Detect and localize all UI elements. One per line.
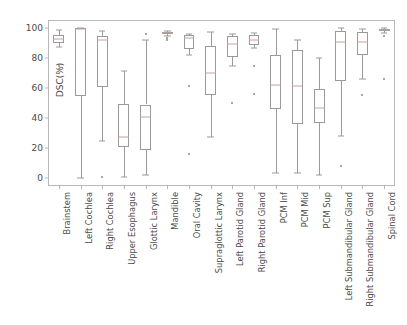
whisker-lower	[81, 96, 82, 177]
cap-upper	[359, 29, 366, 30]
x-tick-label: Oral Cavity	[192, 192, 202, 238]
cap-upper	[294, 40, 301, 41]
boxplot-figure: DSC(%) 020406080100 BrainstemLeft Cochle…	[0, 0, 407, 325]
x-tick-label: Brainstem	[62, 192, 72, 235]
whisker-upper	[276, 29, 277, 55]
x-tick-mark	[59, 186, 60, 189]
outlier-point	[166, 39, 168, 41]
cap-upper	[99, 30, 106, 31]
whisker-upper	[211, 32, 212, 46]
x-tick-mark	[102, 186, 103, 189]
x-tick-label: Right Parotid Gland	[257, 192, 267, 272]
cap-lower	[186, 54, 193, 55]
median-line	[184, 38, 195, 39]
cap-upper	[121, 70, 128, 71]
cap-upper	[207, 32, 214, 33]
median-line	[53, 38, 64, 39]
cap-upper	[56, 29, 63, 30]
cap-upper	[338, 28, 345, 29]
median-line	[140, 116, 151, 117]
iqr-box	[335, 31, 346, 81]
whisker-lower	[341, 81, 342, 136]
cap-lower	[142, 175, 149, 176]
cap-lower	[359, 78, 366, 79]
iqr-box	[227, 36, 238, 57]
y-tick-mark	[45, 118, 48, 119]
outlier-point	[231, 102, 233, 104]
outlier-point	[58, 68, 60, 70]
median-line	[335, 41, 346, 42]
x-tick-mark	[167, 186, 168, 189]
iqr-box	[97, 36, 108, 87]
y-axis-label: DSC(%)	[55, 40, 65, 120]
outlier-point	[361, 94, 363, 96]
whisker-lower	[362, 55, 363, 78]
cap-upper	[272, 29, 279, 30]
cap-lower	[272, 173, 279, 174]
x-tick-label: Glottic Larynx	[149, 192, 159, 250]
cap-upper	[142, 40, 149, 41]
x-tick-mark	[319, 186, 320, 189]
x-tick-label: PCM Inf	[279, 192, 289, 223]
x-tick-label: Mandible	[170, 192, 180, 230]
x-tick-label: Spinal Cord	[387, 192, 397, 240]
outlier-point	[383, 35, 385, 37]
median-line	[75, 29, 86, 30]
outlier-point	[101, 176, 103, 178]
median-line	[379, 29, 390, 30]
median-line	[270, 84, 281, 85]
median-line	[227, 44, 238, 45]
x-tick-mark	[146, 186, 147, 189]
outlier-point	[383, 78, 385, 80]
x-tick-label: Supraglottic Larynx	[214, 192, 224, 273]
cap-upper	[186, 33, 193, 34]
x-tick-mark	[341, 186, 342, 189]
cap-lower	[121, 176, 128, 177]
y-tick-mark	[45, 148, 48, 149]
cap-lower	[316, 175, 323, 176]
outlier-point	[145, 33, 147, 35]
x-tick-label: Upper Esophagus	[127, 192, 137, 265]
whisker-upper	[146, 40, 147, 104]
y-tick-mark	[45, 178, 48, 179]
outlier-point	[253, 65, 255, 67]
iqr-box	[270, 55, 281, 109]
x-tick-label: Left Parotid Gland	[235, 192, 245, 266]
cap-lower	[294, 173, 301, 174]
x-tick-label: Left Submandibular Gland	[344, 192, 354, 300]
cap-lower	[56, 47, 63, 48]
x-tick-mark	[124, 186, 125, 189]
iqr-box	[314, 89, 325, 124]
iqr-box	[205, 46, 216, 96]
iqr-box	[357, 32, 368, 55]
y-tick-mark	[45, 87, 48, 88]
median-line	[118, 136, 129, 137]
y-tick-mark	[45, 27, 48, 28]
x-tick-mark	[254, 186, 255, 189]
x-tick-mark	[211, 186, 212, 189]
x-tick-label: Right Cochlea	[105, 192, 115, 250]
whisker-lower	[211, 95, 212, 137]
median-line	[205, 72, 216, 73]
iqr-box	[140, 105, 151, 150]
outlier-point	[188, 85, 190, 87]
iqr-box	[75, 28, 86, 97]
cap-upper	[316, 58, 323, 59]
outlier-point	[253, 93, 255, 95]
cap-lower	[99, 140, 106, 141]
cap-upper	[164, 30, 171, 31]
median-line	[357, 41, 368, 42]
median-line	[162, 32, 173, 33]
y-tick-mark	[45, 57, 48, 58]
x-tick-mark	[384, 186, 385, 189]
plot-area: DSC(%) 020406080100	[48, 20, 395, 186]
median-line	[292, 86, 303, 87]
whisker-upper	[297, 40, 298, 50]
x-tick-mark	[276, 186, 277, 189]
cap-lower	[338, 136, 345, 137]
x-tick-label: PCM Sup	[322, 192, 332, 228]
x-tick-mark	[232, 186, 233, 189]
cap-lower	[77, 177, 84, 178]
outlier-point	[58, 65, 60, 67]
x-tick-label: Right Submandibular Gland	[365, 192, 375, 307]
